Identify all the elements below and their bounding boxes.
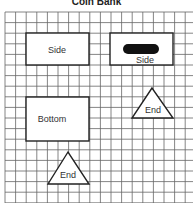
label-end-right: End — [145, 105, 161, 115]
label-side-left: Side — [48, 45, 66, 55]
label-bottom: Bottom — [38, 114, 67, 124]
net-diagram: Side Side Bottom End End — [0, 0, 193, 203]
label-end-bottom: End — [60, 170, 76, 180]
label-side-right: Side — [136, 55, 154, 65]
coin-slot — [123, 44, 159, 54]
